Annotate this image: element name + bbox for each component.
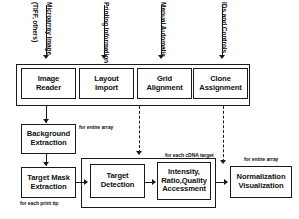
arrow-head-intensity-assessment [152, 179, 156, 185]
arrow-head-ids-and-controls [219, 55, 225, 59]
node-target-mask-extraction-line2: Extraction [30, 183, 66, 192]
caption-for-each-print-tip: for each print tip [20, 200, 58, 206]
caption-for-each-cdna-target: for each cDNA target [165, 152, 213, 158]
arrow-line-printing-information [104, 5, 105, 57]
node-clone-assignment-line2: Assignment [199, 84, 241, 93]
node-normalization-visualization[interactable]: Normalization Visualization [230, 166, 292, 198]
node-background-extraction[interactable]: Background Extraction [21, 124, 76, 154]
node-grid-alignment[interactable]: Grid Alignment [137, 68, 192, 99]
node-intensity-assessment-line3: Accessment [162, 185, 206, 194]
node-image-reader[interactable]: Image Reader [21, 68, 76, 99]
node-target-detection[interactable]: Target Detection [90, 164, 145, 198]
node-target-mask-extraction[interactable]: Target Mask Extraction [21, 167, 76, 198]
node-normalization-visualization-line2: Visualization [239, 182, 284, 191]
arrow-line-ids-and-controls [222, 5, 223, 57]
arrow-head-target-mask-extraction [43, 162, 49, 166]
node-target-detection-line2: Detection [101, 181, 135, 190]
input-sublabel-microarray-image: (TIFF, others) [32, 2, 39, 42]
arrow-head-target-detection-top [136, 151, 142, 155]
arrow-head-normalization-left [224, 179, 228, 185]
arrow-head-manual-automatic [158, 55, 164, 59]
caption-for-entire-array-top: for entire array [79, 124, 113, 130]
node-background-extraction-line2: Extraction [30, 139, 66, 148]
dashed-connector-grid-to-target-detection [139, 106, 140, 153]
node-layout-import[interactable]: Layout Import [79, 68, 134, 99]
node-image-reader-line2: Reader [36, 84, 61, 93]
node-grid-alignment-line2: Alignment [146, 84, 182, 93]
flowchart-canvas: Microarray Image (TIFF, others) Printing… [0, 0, 299, 219]
caption-for-entire-array-right: for entire array [244, 156, 278, 162]
arrow-head-background-extraction [43, 119, 49, 123]
arrow-line-microarray-image [46, 5, 47, 57]
arrow-head-target-detection-left [84, 179, 88, 185]
arrow-head-printing-information [101, 55, 107, 59]
arrow-head-microarray-image [43, 55, 49, 59]
node-intensity-assessment[interactable]: Intensity, Ratio,Quality Accessment [157, 162, 211, 200]
arrow-head-normalization-top [220, 160, 226, 164]
node-clone-assignment[interactable]: Clone Assignment [193, 68, 248, 99]
node-layout-import-line2: Import [95, 84, 118, 93]
arrow-line-manual-automatic [161, 5, 162, 57]
dashed-connector-clone-to-normalization [223, 106, 224, 162]
